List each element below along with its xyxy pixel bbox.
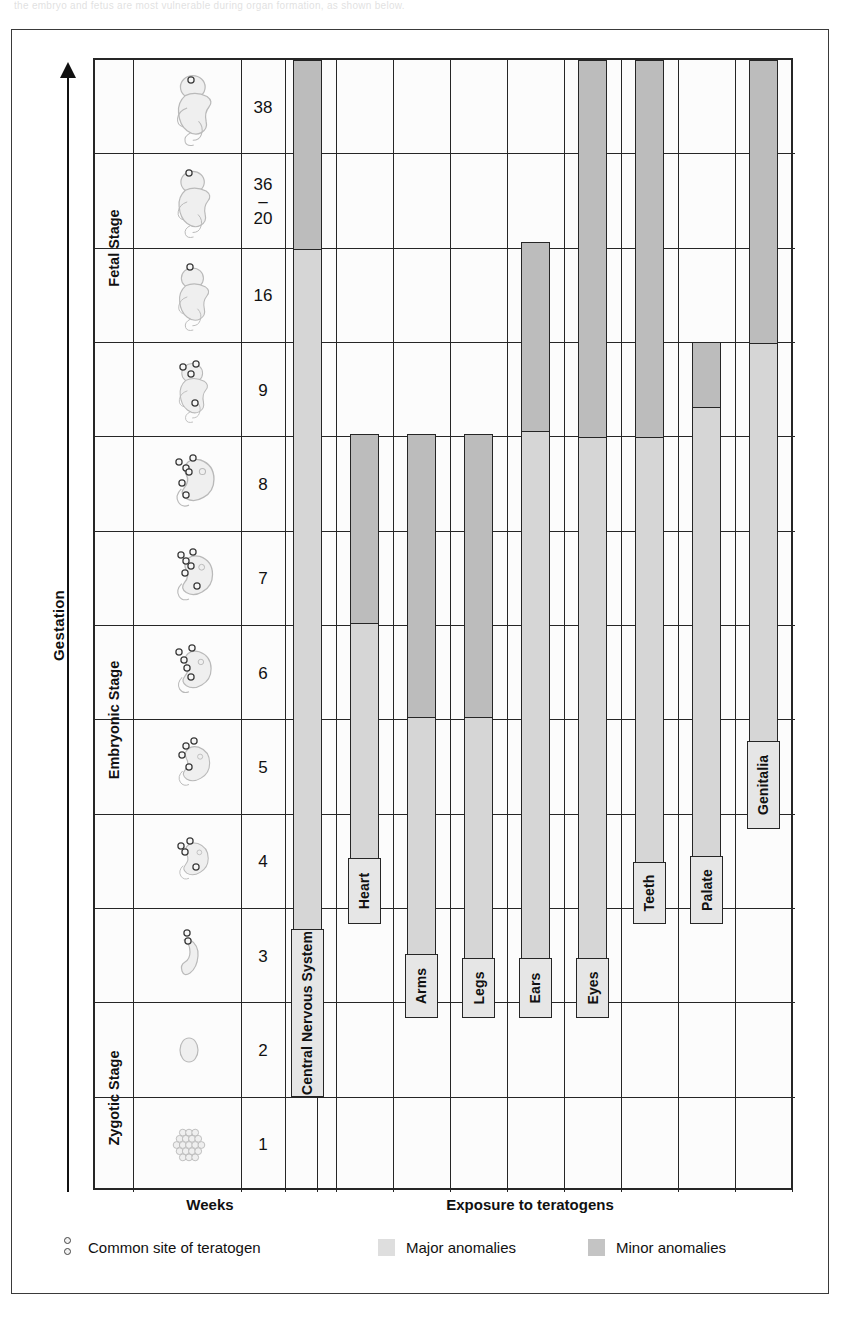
embryo-illustration <box>141 343 237 437</box>
organ-bar-label-text: Legs <box>471 971 487 1004</box>
bar-column-divider <box>678 60 679 1192</box>
week-label: 5 <box>241 720 285 814</box>
organ-bar-label: Central Nervous System <box>291 929 324 1097</box>
embryo-illustration <box>141 720 237 814</box>
legend-item: Common site of teratogen <box>60 1233 261 1261</box>
week-label-line: 16 <box>254 287 273 304</box>
teratogen-site-icon <box>60 1236 77 1258</box>
minor-anomaly-segment <box>579 61 606 437</box>
minor-anomaly-segment <box>636 61 663 437</box>
week-label-line: 6 <box>258 665 267 682</box>
embryo-illustration <box>141 532 237 626</box>
week-label-line: 2 <box>258 1042 267 1059</box>
embryo-illustration <box>141 909 237 1003</box>
teratogen-dot <box>64 1237 71 1244</box>
week-label-line: 38 <box>254 99 273 116</box>
minor-anomaly-segment <box>750 61 777 343</box>
week-label-line: – <box>258 193 267 210</box>
organ-bar-label: Genitalia <box>747 741 780 829</box>
embryo-illustration <box>141 1098 237 1192</box>
embryo-illustration <box>141 815 237 909</box>
organ-bar-label-text: Arms <box>414 968 430 1004</box>
week-label-line: 36 <box>254 176 273 193</box>
embryo-illustration <box>141 60 237 154</box>
minor-anomaly-segment <box>465 435 492 717</box>
organ-bar <box>578 60 607 1018</box>
legend-label: Common site of teratogen <box>88 1239 261 1256</box>
week-label-line: 8 <box>258 476 267 493</box>
organ-bar <box>407 434 436 1018</box>
bar-column-divider <box>507 60 508 1192</box>
legend-label: Major anomalies <box>406 1239 516 1256</box>
organ-bar-label-text: Teeth <box>642 875 658 912</box>
major-anomaly-segment <box>693 407 720 923</box>
organ-bar-label: Heart <box>348 858 381 924</box>
column-divider <box>133 60 134 1192</box>
bar-column-divider <box>621 60 622 1192</box>
organ-bar <box>635 60 664 924</box>
embryo-illustration <box>141 154 237 248</box>
embryo-illustration <box>141 437 237 531</box>
organ-bar-label: Legs <box>462 958 495 1018</box>
stage-label: Fetal Stage <box>106 209 122 286</box>
column-divider <box>285 60 286 1192</box>
week-label-line: 5 <box>258 759 267 776</box>
gestation-axis-label: Gestation <box>50 306 67 946</box>
week-label-line: 4 <box>258 853 267 870</box>
legend: Common site of teratogenMajor anomaliesM… <box>60 1233 800 1267</box>
minor-anomaly-segment <box>693 343 720 407</box>
stage-cell: Fetal Stage <box>95 60 133 437</box>
organ-bar-label-text: Heart <box>357 873 373 909</box>
week-label-line: 7 <box>258 570 267 587</box>
week-label-line: 3 <box>258 948 267 965</box>
organ-bar-label: Teeth <box>633 862 666 924</box>
caption-weeks: Weeks <box>150 1196 270 1213</box>
week-label: 2 <box>241 1003 285 1097</box>
week-label: 6 <box>241 626 285 720</box>
organ-bar-label-text: Palate <box>699 869 715 911</box>
week-label: 4 <box>241 815 285 909</box>
legend-swatch-major <box>378 1239 395 1256</box>
organ-bar-label-text: Eyes <box>585 971 601 1004</box>
legend-item: Minor anomalies <box>588 1233 726 1261</box>
bar-column-divider <box>393 60 394 1192</box>
stage-label: Zygotic Stage <box>106 1050 122 1145</box>
week-label-line: 1 <box>258 1136 267 1153</box>
minor-anomaly-segment <box>294 61 321 249</box>
stage-label: Embryonic Stage <box>106 661 122 779</box>
week-label: 36–20 <box>241 154 285 248</box>
minor-anomaly-segment <box>522 243 549 431</box>
major-anomaly-segment <box>522 431 549 1017</box>
week-label: 1 <box>241 1098 285 1192</box>
organ-bar <box>749 60 778 829</box>
gestation-axis: Gestation <box>48 62 88 1192</box>
organ-bar <box>521 242 550 1018</box>
week-label: 38 <box>241 60 285 154</box>
minor-anomaly-segment <box>351 435 378 623</box>
organ-bar-label-text: Ears <box>527 973 543 1004</box>
bar-column-divider <box>735 60 736 1192</box>
major-anomaly-segment <box>579 437 606 1017</box>
legend-label: Minor anomalies <box>616 1239 726 1256</box>
bar-column-divider <box>792 60 793 1192</box>
page-bleed-text: the embryo and fetus are most vulnerable… <box>0 0 845 22</box>
legend-item: Major anomalies <box>378 1233 516 1261</box>
bar-column-divider <box>336 60 337 1192</box>
legend-swatch-minor <box>588 1239 605 1256</box>
column-divider <box>241 60 242 1192</box>
week-label: 3 <box>241 909 285 1003</box>
major-anomaly-segment <box>636 437 663 923</box>
organ-bar-label-text: Central Nervous System <box>300 931 316 1095</box>
organ-bar-label: Ears <box>519 958 552 1018</box>
organ-bar-label: Eyes <box>576 958 609 1018</box>
week-label: 7 <box>241 532 285 626</box>
embryo-illustration <box>141 626 237 720</box>
organ-bar <box>692 342 721 924</box>
bar-column-divider <box>450 60 451 1192</box>
teratogen-dot <box>64 1248 71 1255</box>
stage-cell: Embryonic Stage <box>95 437 133 1003</box>
organ-bar-label: Palate <box>690 856 723 924</box>
embryo-illustration <box>141 249 237 343</box>
embryo-illustration <box>141 1003 237 1097</box>
organ-bar-label-text: Genitalia <box>756 755 772 815</box>
